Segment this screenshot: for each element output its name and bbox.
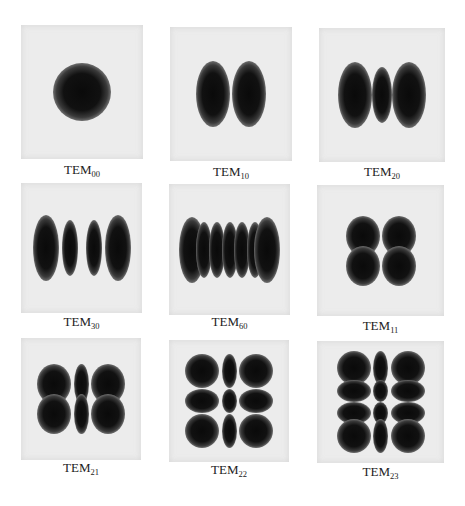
intensity-lobe [391,419,425,453]
intensity-lobe [185,354,219,388]
intensity-lobe [222,414,237,448]
mode-pattern-panel [21,183,142,313]
mode-label: TEM00 [17,162,147,179]
intensity-lobe [239,389,273,413]
intensity-lobe [74,394,89,434]
intensity-lobe [338,62,372,128]
intensity-lobe [346,246,380,286]
mode-label: TEM11 [316,318,446,335]
intensity-lobe [37,394,71,434]
mode-pattern-panel [21,25,143,159]
intensity-lobe [53,63,111,121]
intensity-lobe [239,414,273,448]
intensity-lobe [33,215,59,281]
intensity-lobe [185,414,219,448]
mode-pattern-panel [319,28,445,162]
intensity-lobe [254,217,280,283]
mode-label: TEM30 [17,314,147,331]
intensity-lobe [196,61,230,127]
intensity-lobe [232,61,266,127]
intensity-lobe [337,380,371,402]
mode-label: TEM21 [16,460,146,477]
mode-pattern-panel [317,341,444,463]
mode-label: TEM10 [166,164,296,181]
intensity-lobe [373,419,388,453]
intensity-lobe [62,220,78,276]
mode-label: TEM60 [165,314,295,331]
intensity-lobe [222,389,237,413]
intensity-lobe [105,215,131,281]
mode-pattern-panel [21,338,141,460]
mode-pattern-panel [170,27,292,161]
mode-pattern-panel [317,185,444,316]
intensity-lobe [86,220,102,276]
intensity-lobe [91,394,125,434]
intensity-lobe [222,354,237,388]
mode-pattern-panel [169,340,289,462]
mode-pattern-panel [169,184,290,315]
intensity-lobe [337,419,371,453]
intensity-lobe [185,389,219,413]
mode-label: TEM22 [164,462,294,479]
intensity-lobe [391,380,425,402]
mode-label: TEM20 [317,164,447,181]
intensity-lobe [392,62,426,128]
intensity-lobe [239,354,273,388]
mode-label: TEM23 [316,464,446,481]
intensity-lobe [373,380,388,402]
intensity-lobe [372,67,392,123]
intensity-lobe [382,246,416,286]
